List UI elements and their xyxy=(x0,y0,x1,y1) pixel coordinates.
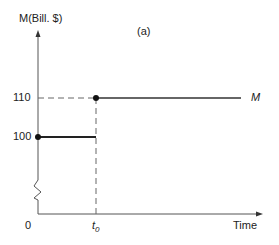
t0-sub: 0 xyxy=(95,225,99,234)
series-label-m: M xyxy=(251,91,260,103)
x-axis xyxy=(38,212,263,217)
panel-label: (a) xyxy=(137,25,150,37)
x-tick-t0: t0 xyxy=(92,219,100,234)
y-axis xyxy=(34,30,41,214)
y-tick-110: 110 xyxy=(13,91,31,103)
y-tick-100: 100 xyxy=(13,130,31,142)
point-t0-110 xyxy=(93,95,99,101)
x-axis-label: Time xyxy=(233,219,257,231)
point-start-100 xyxy=(35,134,41,140)
y-axis-label: M(Bill. $) xyxy=(19,12,62,24)
origin-label: 0 xyxy=(25,219,31,231)
